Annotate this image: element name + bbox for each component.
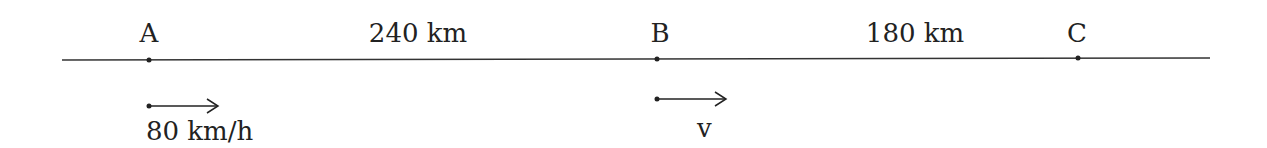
motion-diagram: A B C 240 km 180 km 80 km/h v xyxy=(0,0,1267,148)
velocity-b-label: v xyxy=(696,113,712,143)
road-line xyxy=(62,58,1210,60)
segment-ab-label: 240 km xyxy=(369,18,467,48)
point-c-dot xyxy=(1076,56,1081,61)
point-c-label: C xyxy=(1067,18,1087,48)
point-b-dot xyxy=(655,57,660,62)
point-a-label: A xyxy=(139,18,160,48)
segment-bc-label: 180 km xyxy=(866,18,964,48)
point-b-label: B xyxy=(650,18,669,48)
velocity-arrow-b xyxy=(655,92,727,106)
point-a-dot xyxy=(147,58,152,63)
velocity-a-label: 80 km/h xyxy=(146,116,254,146)
velocity-arrow-a xyxy=(147,99,219,113)
